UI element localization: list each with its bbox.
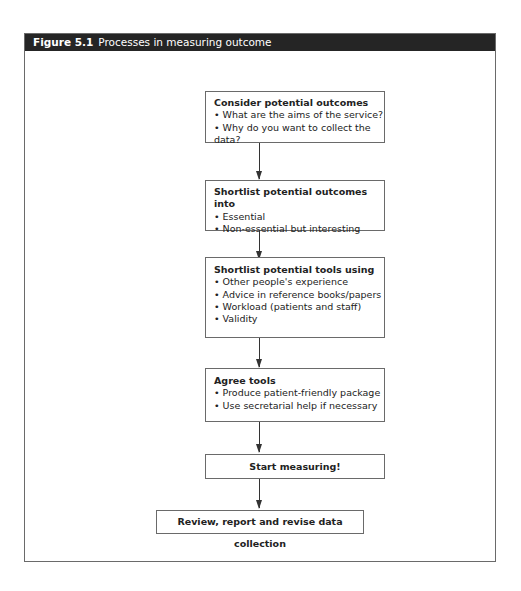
- bullet-item: Produce patient-friendly package: [214, 387, 384, 399]
- bullet-item: Why do you want to collect the data?: [214, 122, 384, 147]
- figure-number: Figure 5.1: [33, 36, 93, 48]
- step-consider-outcomes: Consider potential outcomes What are the…: [205, 91, 385, 143]
- flow-arrow: [259, 479, 260, 508]
- step-heading: Start measuring!: [249, 461, 340, 472]
- bullet-item: Use secretarial help if necessary: [214, 400, 384, 412]
- flow-arrow: [259, 231, 260, 259]
- bullet-item: Advice in reference books/papers: [214, 289, 384, 301]
- flow-arrow: [259, 338, 260, 367]
- bullet-item: Workload (patients and staff): [214, 301, 384, 313]
- step-heading: Agree tools: [214, 375, 384, 387]
- figure-header: Figure 5.1Processes in measuring outcome: [25, 34, 495, 51]
- step-start-measuring: Start measuring!: [205, 454, 385, 479]
- bullet-item: Validity: [214, 313, 384, 325]
- step-heading: Shortlist potential outcomes into: [214, 186, 384, 211]
- figure-title: Processes in measuring outcome: [98, 36, 271, 48]
- step-heading: Shortlist potential tools using: [214, 264, 384, 276]
- step-heading: Consider potential outcomes: [214, 97, 384, 109]
- bullet-item: Essential: [214, 211, 384, 223]
- step-review-report-revise: Review, report and revise data collectio…: [156, 510, 364, 534]
- step-bullets: What are the aims of the service? Why do…: [214, 109, 384, 146]
- bullet-item: What are the aims of the service?: [214, 109, 384, 121]
- step-shortlist-outcomes: Shortlist potential outcomes into Essent…: [205, 180, 385, 231]
- step-bullets: Produce patient-friendly package Use sec…: [214, 387, 384, 412]
- flow-arrow: [259, 422, 260, 452]
- flow-arrow: [259, 143, 260, 179]
- bullet-item: Non-essential but interesting: [214, 223, 384, 235]
- step-agree-tools: Agree tools Produce patient-friendly pac…: [205, 368, 385, 422]
- step-shortlist-tools: Shortlist potential tools using Other pe…: [205, 257, 385, 338]
- step-bullets: Other people's experience Advice in refe…: [214, 276, 384, 325]
- bullet-item: Other people's experience: [214, 276, 384, 288]
- step-bullets: Essential Non-essential but interesting: [214, 211, 384, 236]
